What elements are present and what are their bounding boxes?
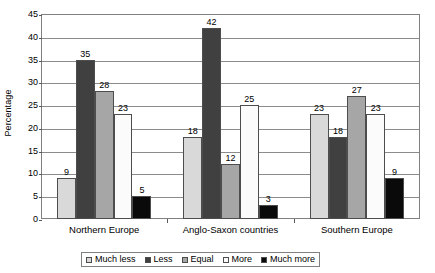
y-axis-tick-mark	[39, 220, 42, 221]
legend-item[interactable]: Much less	[86, 255, 136, 264]
legend-swatch-icon	[223, 257, 229, 263]
bar	[240, 105, 259, 219]
bar-value-label: 23	[118, 103, 128, 113]
bar	[385, 178, 404, 219]
bar	[310, 114, 329, 219]
bar	[221, 164, 240, 219]
x-axis-category-labels: Northern EuropeAnglo-Saxon countriesSout…	[41, 224, 420, 240]
legend-label: Much less	[95, 255, 136, 264]
chart-legend: Much lessLessEqualMoreMuch more	[81, 252, 320, 267]
bar-value-label: 9	[64, 167, 69, 177]
bar	[76, 60, 95, 219]
bar-value-label: 42	[207, 17, 217, 27]
bar-group: 231827239	[294, 14, 420, 219]
y-axis-tick-label: 35	[28, 55, 38, 65]
bar	[95, 91, 114, 219]
bar-value-label: 35	[80, 49, 90, 59]
bar	[329, 137, 348, 219]
bars-layer: 93528235184212253231827239	[41, 14, 420, 219]
legend-item[interactable]: Less	[145, 255, 173, 264]
x-axis-group-separator	[294, 219, 295, 223]
legend-label: More	[232, 255, 253, 264]
x-axis-category-label: Anglo-Saxon countries	[183, 224, 279, 235]
bar	[57, 178, 76, 219]
bar	[183, 137, 202, 219]
legend-swatch-icon	[261, 257, 267, 263]
bar	[114, 114, 133, 219]
y-axis-tick-label: 10	[28, 168, 38, 178]
bar-group: 184212253	[167, 14, 293, 219]
legend-swatch-icon	[182, 257, 188, 263]
y-axis-tick-label: 30	[28, 77, 38, 87]
y-axis-tick-label: 5	[33, 191, 38, 201]
bar	[259, 205, 278, 219]
x-axis-category-label: Southern Europe	[321, 224, 393, 235]
bar-value-label: 28	[99, 80, 109, 90]
y-axis-title-text: Percentage	[3, 89, 13, 136]
bar	[366, 114, 385, 219]
y-axis-tick-label: 45	[28, 9, 38, 19]
y-axis-tick-label: 0	[33, 214, 38, 224]
bar-group: 93528235	[41, 14, 167, 219]
y-axis-tick-label: 15	[28, 146, 38, 156]
y-axis-tick-label: 40	[28, 32, 38, 42]
legend-swatch-icon	[145, 257, 151, 263]
y-axis-tick-label: 20	[28, 123, 38, 133]
bar-value-label: 3	[266, 194, 271, 204]
bar-value-label: 18	[188, 126, 198, 136]
y-axis-tick-labels: 454035302520151050	[14, 14, 38, 219]
x-axis-category-label: Northern Europe	[69, 224, 139, 235]
bar	[347, 96, 366, 219]
legend-item[interactable]: Equal	[182, 255, 214, 264]
bar-value-label: 27	[352, 85, 362, 95]
bar-value-label: 18	[333, 126, 343, 136]
legend-label: Equal	[191, 255, 214, 264]
bar-chart: Percentage 454035302520151050 9352823518…	[0, 0, 435, 273]
bar	[132, 196, 151, 219]
x-axis-group-separator	[167, 219, 168, 223]
legend-item[interactable]: More	[223, 255, 253, 264]
legend-item[interactable]: Much more	[261, 255, 315, 264]
legend-label: Less	[154, 255, 173, 264]
bar-value-label: 25	[244, 94, 254, 104]
bar-value-label: 9	[392, 167, 397, 177]
legend-label: Much more	[270, 255, 315, 264]
legend-swatch-icon	[86, 257, 92, 263]
bar-value-label: 23	[314, 103, 324, 113]
bar	[202, 28, 221, 219]
y-axis-tick-label: 25	[28, 100, 38, 110]
bar-value-label: 23	[371, 103, 381, 113]
bar-value-label: 5	[139, 185, 144, 195]
bar-value-label: 12	[225, 153, 235, 163]
